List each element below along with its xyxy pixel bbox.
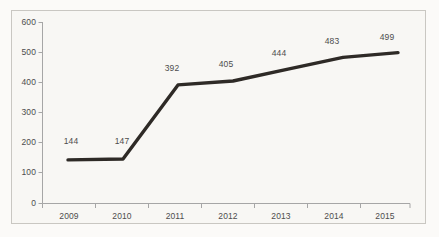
point-label-2013: 444 [264,48,294,58]
chart-screenshot: 600 500 400 300 200 100 0 2009 2010 2011… [0,0,439,237]
point-label-2011: 392 [157,63,187,73]
xtick-label-2011: 2011 [155,211,195,221]
ytick-label-300: 300 [10,107,36,117]
xtick-label-2009: 2009 [49,211,89,221]
chart-frame [11,10,426,224]
point-label-2009: 144 [56,136,86,146]
point-label-2014: 483 [317,36,347,46]
point-label-2010: 147 [107,136,137,146]
xtick-label-2014: 2014 [314,211,354,221]
xtick-label-2015: 2015 [365,211,405,221]
xtick-label-2013: 2013 [261,211,301,221]
ytick-label-0: 0 [10,198,36,208]
ytick-label-600: 600 [10,17,36,27]
xtick-label-2010: 2010 [102,211,142,221]
xtick-label-2012: 2012 [208,211,248,221]
ytick-label-200: 200 [10,137,36,147]
ytick-label-400: 400 [10,77,36,87]
ytick-label-100: 100 [10,167,36,177]
point-label-2012: 405 [211,59,241,69]
point-label-2015: 499 [372,32,402,42]
ytick-label-500: 500 [10,47,36,57]
